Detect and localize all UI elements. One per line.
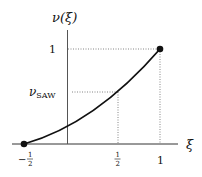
svg-text:1: 1 [116,151,120,159]
x-axis-label: ξ [186,137,194,152]
svg-text:−: − [18,154,26,165]
chart: ν(ξ) ξ 1 νSAW − 1 2 1 2 1 [0,0,202,177]
svg-text:1: 1 [28,151,32,159]
y-tick-1: 1 [49,43,56,56]
x-tick-neg-half: − 1 2 [18,151,33,168]
svg-text:2: 2 [116,160,120,168]
x-tick-half: 1 2 [115,151,121,168]
end-point-marker [157,46,164,53]
svg-text:2: 2 [28,160,32,168]
start-point-marker [21,141,28,148]
y-axis-label: ν(ξ) [52,10,77,25]
x-tick-1: 1 [157,154,164,167]
y-tick-nu-saw: νSAW [29,85,56,100]
